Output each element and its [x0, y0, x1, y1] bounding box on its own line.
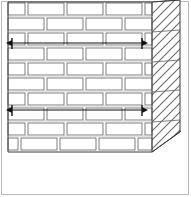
brick [8, 93, 25, 105]
brick [8, 3, 25, 15]
brick-course [8, 93, 152, 105]
brick-course [8, 18, 152, 30]
brick [86, 48, 122, 60]
brick [86, 18, 122, 30]
brick [28, 123, 64, 135]
brick [106, 123, 142, 135]
brick [8, 138, 18, 150]
brick-course [8, 78, 152, 90]
brick-course [8, 3, 152, 15]
brick [21, 138, 57, 150]
brick [28, 93, 64, 105]
brick [28, 63, 64, 75]
brick-wall-figure [0, 0, 191, 197]
brick [145, 33, 152, 45]
brick [125, 18, 152, 30]
brick [47, 48, 83, 60]
brick [106, 93, 142, 105]
brick [67, 123, 103, 135]
brick [8, 78, 44, 90]
brick [145, 3, 152, 15]
brick [125, 78, 152, 90]
brick [67, 93, 103, 105]
brick [86, 78, 122, 90]
brick [67, 3, 103, 15]
brick [8, 63, 25, 75]
brick [106, 63, 142, 75]
brick-wall-elevation [8, 2, 152, 152]
brick [99, 138, 135, 150]
brick [125, 48, 152, 60]
brick [106, 3, 142, 15]
brick [47, 18, 83, 30]
brick [138, 138, 152, 150]
technical-drawing-canvas [0, 0, 191, 197]
brick [28, 3, 64, 15]
brick-course [8, 123, 152, 135]
brick [145, 93, 152, 105]
brick-course [8, 138, 152, 150]
brick [8, 123, 25, 135]
brick [8, 18, 44, 30]
brick-course [8, 63, 152, 75]
brick [60, 138, 96, 150]
brick [145, 63, 152, 75]
brick [67, 63, 103, 75]
brick [8, 48, 44, 60]
brick-course [8, 48, 152, 60]
brick [47, 78, 83, 90]
brick [145, 123, 152, 135]
